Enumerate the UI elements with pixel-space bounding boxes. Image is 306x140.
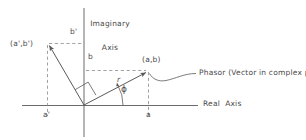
annotation-leader-line bbox=[150, 74, 197, 81]
axis-label-imaginary: Imaginary Axis bbox=[88, 4, 132, 69]
tick-label-a-prime: a' bbox=[43, 111, 50, 119]
vector-conjugate-reflected bbox=[49, 46, 84, 105]
axis-label-real: Real Axis bbox=[203, 100, 242, 108]
phasor-diagram-figure: Imaginary Axis Real Axis (a,b) (a',b') b… bbox=[0, 0, 306, 140]
angle-label-phi: ϕ bbox=[121, 85, 127, 95]
axis-label-imaginary-line2: Axis bbox=[88, 44, 132, 52]
phasor-annotation-text: Phasor (Vector in complex plane) bbox=[199, 69, 306, 77]
vector-phasor-r bbox=[84, 73, 146, 105]
magnitude-label-r: r bbox=[117, 76, 120, 84]
point-label-a-b: (a,b) bbox=[142, 56, 161, 64]
tick-label-a: a bbox=[146, 111, 151, 119]
right-angle-marker bbox=[75, 82, 96, 95]
point-label-aprime-bprime: (a',b') bbox=[10, 40, 33, 48]
tick-label-b-prime: b' bbox=[70, 28, 77, 36]
tick-label-b: b bbox=[88, 53, 93, 61]
axis-label-imaginary-line1: Imaginary bbox=[88, 20, 132, 28]
